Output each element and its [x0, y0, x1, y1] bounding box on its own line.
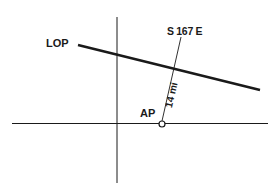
bearing-label: S 167 E [167, 26, 202, 37]
bearing-line [162, 37, 181, 121]
ap-label: AP [140, 108, 155, 119]
assumed-position-marker [159, 121, 165, 127]
lop-label: LOP [46, 38, 69, 49]
diagram-canvas [0, 0, 279, 193]
